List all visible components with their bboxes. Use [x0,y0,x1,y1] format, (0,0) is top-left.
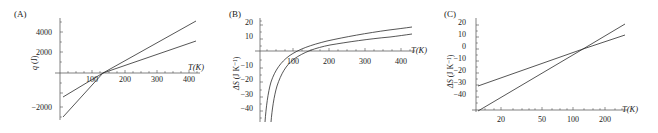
figure-container: (A) T(K) q (J) 4000 2000 −2000 100 200 3… [0,0,658,133]
panel-a-curve-shallow [63,41,196,97]
panel-c-line-shallow [478,35,625,86]
panel-c: (C) T(K) ΔS (J K⁻¹) 20 10 0 −10 −20 −30 … [432,0,658,133]
panel-a-curve-steep [63,21,196,117]
panel-a-x-tickmarks [68,70,197,73]
panel-b-y-tickmarks [260,21,263,118]
panel-c-plot [432,0,658,133]
panel-b-x-tickmarks [267,48,410,51]
panel-b: (B) T(K) ΔS (J K⁻¹) 20 10 −10 −20 −30 −4… [215,0,440,133]
panel-c-line-steep [478,24,625,111]
panel-a-plot [0,0,220,133]
panel-c-x-tickmarks [485,107,622,110]
panel-b-plot [215,0,440,133]
panel-c-y-tickmarks [476,25,479,103]
panel-a: (A) T(K) q (J) 4000 2000 −2000 100 200 3… [0,0,220,133]
panel-b-curve-lower [271,34,412,122]
panel-a-y-tickmarks [60,22,63,117]
panel-b-curve-upper [265,27,412,122]
